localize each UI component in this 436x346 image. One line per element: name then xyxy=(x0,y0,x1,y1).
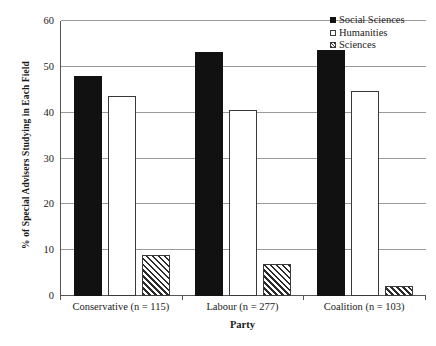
legend-item-label: Humanities xyxy=(339,27,387,39)
bar-group xyxy=(183,21,305,296)
hollow-square-icon xyxy=(330,30,336,36)
x-category-label: Labour (n = 277) xyxy=(182,300,304,314)
y-tick-label-60: 60 xyxy=(26,16,54,26)
bar-social-sciences-0 xyxy=(74,76,102,296)
legend-item-label: Social Sciences xyxy=(339,14,405,26)
x-axis-title: Party xyxy=(60,318,425,332)
x-tick-3 xyxy=(425,296,426,300)
legend-item[interactable]: Humanities xyxy=(330,27,434,40)
y-tick-label-40: 40 xyxy=(26,108,54,118)
plot-area xyxy=(60,21,426,296)
bar-group xyxy=(61,21,183,296)
y-tick-label-50: 50 xyxy=(26,62,54,72)
legend-item-label: Sciences xyxy=(339,39,376,51)
bar-social-sciences-1 xyxy=(195,52,223,296)
legend-item[interactable]: Sciences xyxy=(330,39,434,52)
bar-chart: % of Special Advisers Studying in Each F… xyxy=(0,0,436,346)
legend-item[interactable]: Social Sciences xyxy=(330,14,434,27)
y-axis-tick-labels: 0102030405060 xyxy=(26,0,54,346)
y-tick-label-0: 0 xyxy=(26,291,54,301)
y-tick-label-10: 10 xyxy=(26,245,54,255)
hatched-square-icon xyxy=(330,42,336,48)
bar-humanities-2 xyxy=(351,91,379,296)
bar-humanities-0 xyxy=(108,96,136,296)
bar-sciences-2 xyxy=(385,286,413,296)
bar-sciences-1 xyxy=(263,264,291,296)
chart-legend: Social SciencesHumanitiesSciences xyxy=(330,14,434,52)
bar-sciences-0 xyxy=(142,255,170,296)
bar-social-sciences-2 xyxy=(317,50,345,296)
filled-square-icon xyxy=(330,17,336,23)
bar-group xyxy=(304,21,426,296)
y-tick-label-20: 20 xyxy=(26,199,54,209)
x-category-label: Conservative (n = 115) xyxy=(60,300,182,314)
y-tick-label-30: 30 xyxy=(26,154,54,164)
x-category-label: Coalition (n = 103) xyxy=(303,300,425,314)
bar-humanities-1 xyxy=(229,110,257,296)
